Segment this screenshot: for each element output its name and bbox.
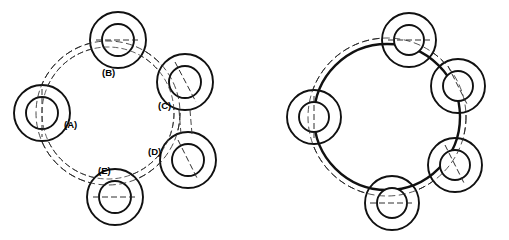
- callout-b: (B): [102, 67, 115, 78]
- technical-drawing-canvas: (A) (B) (C) (D) (E): [0, 0, 509, 240]
- hub-e: [87, 169, 143, 225]
- callout-d: (D): [148, 146, 161, 157]
- hub-b: [90, 12, 146, 68]
- callout-a: (A): [64, 119, 77, 130]
- engineering-drawing-figure: (A) (B) (C) (D) (E): [0, 0, 509, 240]
- callout-e: (E): [98, 165, 111, 176]
- callout-c: (C): [158, 100, 171, 111]
